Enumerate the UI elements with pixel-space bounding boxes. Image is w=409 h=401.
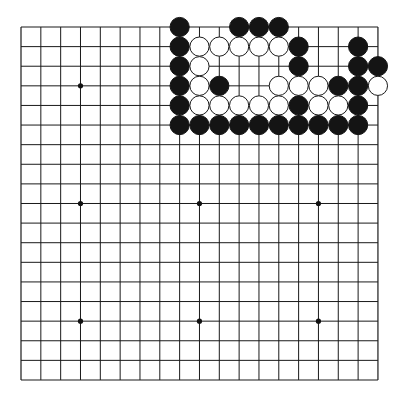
black-stone[interactable]: [230, 17, 249, 36]
black-stone[interactable]: [289, 96, 308, 115]
black-stone[interactable]: [170, 57, 189, 76]
stones-layer: [170, 17, 388, 134]
white-stone[interactable]: [368, 76, 387, 95]
star-point-icon: [78, 201, 83, 206]
go-board[interactable]: [0, 0, 409, 401]
white-stone[interactable]: [289, 76, 308, 95]
black-stone[interactable]: [170, 76, 189, 95]
black-stone[interactable]: [349, 115, 368, 134]
black-stone[interactable]: [289, 115, 308, 134]
white-stone[interactable]: [190, 57, 209, 76]
black-stone[interactable]: [210, 76, 229, 95]
black-stone[interactable]: [170, 96, 189, 115]
white-stone[interactable]: [230, 37, 249, 56]
white-stone[interactable]: [190, 37, 209, 56]
black-stone[interactable]: [349, 96, 368, 115]
black-stone[interactable]: [289, 57, 308, 76]
white-stone[interactable]: [249, 96, 268, 115]
black-stone[interactable]: [170, 115, 189, 134]
star-point-icon: [78, 83, 83, 88]
white-stone[interactable]: [190, 96, 209, 115]
black-stone[interactable]: [230, 115, 249, 134]
black-stone[interactable]: [349, 57, 368, 76]
black-stone[interactable]: [190, 115, 209, 134]
white-stone[interactable]: [230, 96, 249, 115]
white-stone[interactable]: [249, 37, 268, 56]
white-stone[interactable]: [190, 76, 209, 95]
white-stone[interactable]: [269, 37, 288, 56]
black-stone[interactable]: [249, 17, 268, 36]
white-stone[interactable]: [329, 96, 348, 115]
white-stone[interactable]: [269, 76, 288, 95]
white-stone[interactable]: [210, 37, 229, 56]
star-point-icon: [316, 319, 321, 324]
black-stone[interactable]: [170, 37, 189, 56]
star-point-icon: [197, 319, 202, 324]
white-stone[interactable]: [309, 96, 328, 115]
black-stone[interactable]: [329, 76, 348, 95]
black-stone[interactable]: [269, 17, 288, 36]
white-stone[interactable]: [210, 96, 229, 115]
star-point-icon: [78, 319, 83, 324]
black-stone[interactable]: [368, 57, 387, 76]
black-stone[interactable]: [349, 37, 368, 56]
white-stone[interactable]: [269, 96, 288, 115]
black-stone[interactable]: [289, 37, 308, 56]
black-stone[interactable]: [269, 115, 288, 134]
black-stone[interactable]: [249, 115, 268, 134]
black-stone[interactable]: [329, 115, 348, 134]
black-stone[interactable]: [170, 17, 189, 36]
black-stone[interactable]: [210, 115, 229, 134]
black-stone[interactable]: [349, 76, 368, 95]
star-point-icon: [316, 201, 321, 206]
white-stone[interactable]: [309, 76, 328, 95]
star-point-icon: [197, 201, 202, 206]
black-stone[interactable]: [309, 115, 328, 134]
